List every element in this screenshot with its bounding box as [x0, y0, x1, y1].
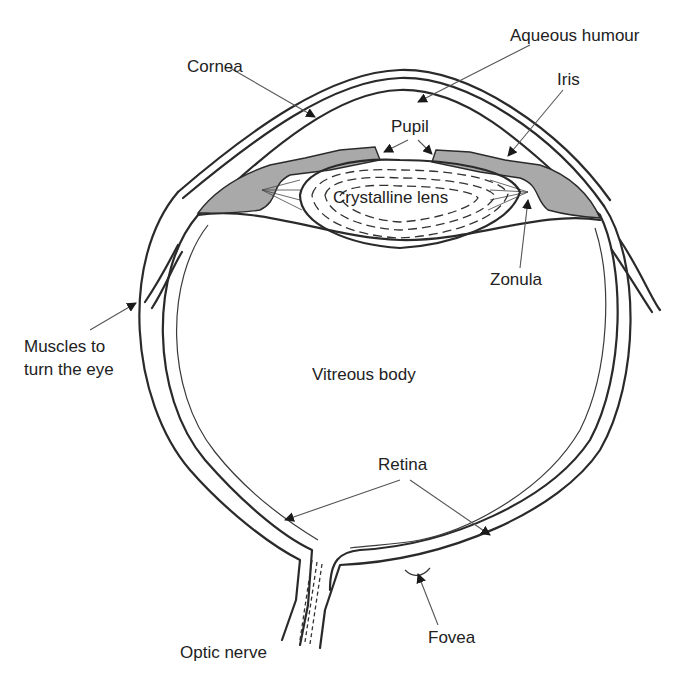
leader-lines	[90, 45, 563, 625]
label-muscles-line2: turn the eye	[24, 360, 114, 380]
label-vitreous-body: Vitreous body	[312, 365, 416, 385]
label-cornea: Cornea	[187, 57, 243, 77]
label-muscles-line1: Muscles to	[24, 337, 105, 357]
label-fovea: Fovea	[428, 628, 475, 648]
ciliary-base	[198, 213, 600, 240]
label-crystalline-lens: Crystalline lens	[333, 188, 448, 208]
sclera-shape	[139, 192, 630, 648]
label-aqueous-humour: Aqueous humour	[510, 26, 639, 46]
label-retina: Retina	[378, 455, 427, 475]
label-zonula: Zonula	[490, 270, 542, 290]
label-pupil: Pupil	[391, 117, 429, 137]
muscle-lines	[145, 240, 660, 312]
label-optic-nerve: Optic nerve	[180, 643, 267, 663]
label-iris: Iris	[557, 70, 580, 90]
fovea-pit	[405, 568, 430, 575]
